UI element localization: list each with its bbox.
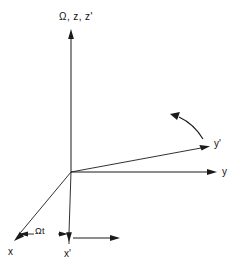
angle-marker-right [58,231,68,236]
rotation-arc-arrowhead [170,112,180,120]
z-axis-arrowhead [68,29,74,39]
label-y-prime-axis: y' [214,139,221,149]
x-axis-line [21,172,71,232]
label-y-axis: y [222,167,227,177]
y-prime-axis-line [71,148,201,172]
x-prime-velocity-arrowhead [110,235,120,241]
label-x-axis: x [8,247,13,257]
y-axis-arrowhead [207,169,217,175]
rotation-direction-arrow [170,112,203,139]
label-angle-omega-t: Ωt [35,227,45,236]
rotation-arc-path [179,117,203,139]
angle-marker-right-arrowhead [59,231,68,236]
y-prime-axis-arrowhead [199,145,210,151]
z-axis-group [68,29,74,172]
x-prime-velocity-arrow [73,235,120,241]
x-prime-axis-line [69,172,71,233]
y-axis-group [71,169,217,175]
y-prime-axis-group [71,145,210,172]
label-x-prime-axis: x' [64,249,71,259]
x-prime-axis-group [66,172,72,242]
label-vertical-axis: Ω, z, z' [59,12,93,22]
diagram-canvas: Ω, z, z' y y' x x' Ωt [0,0,244,271]
